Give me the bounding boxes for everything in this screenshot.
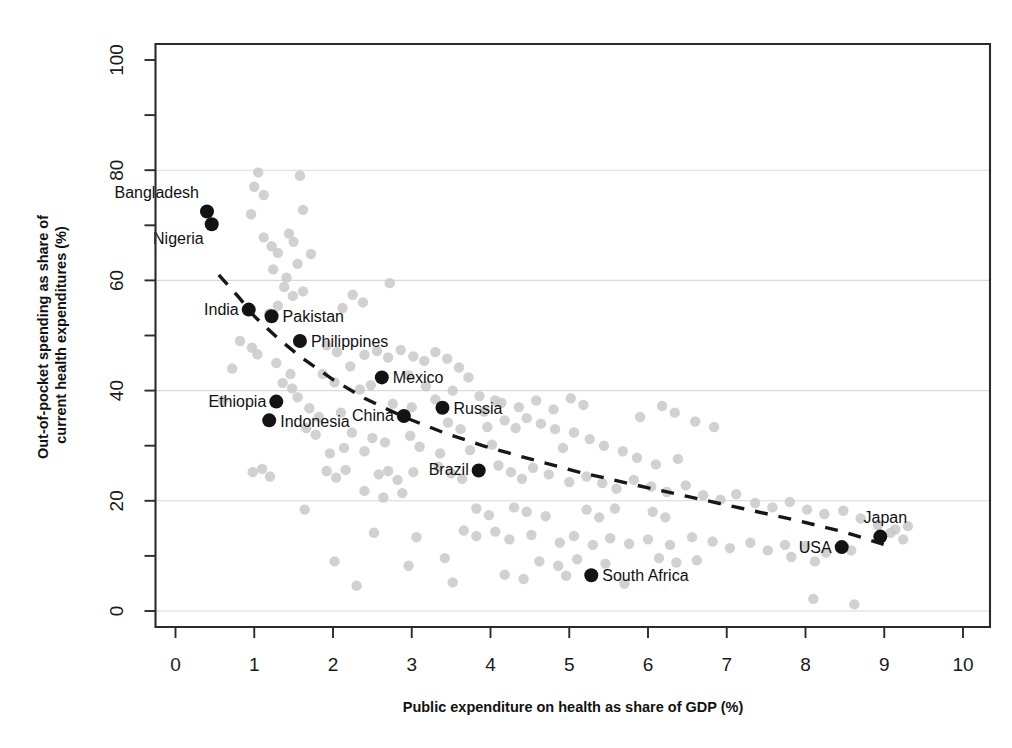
data-point <box>767 502 777 512</box>
data-point <box>285 369 295 379</box>
data-point <box>522 413 532 423</box>
data-point <box>555 537 565 547</box>
point-label-usa: USA <box>799 539 832 556</box>
highlight-point-bangladesh <box>200 205 214 219</box>
data-point <box>528 463 538 473</box>
data-point <box>355 384 365 394</box>
data-point <box>304 403 314 413</box>
highlight-point-nigeria <box>205 217 219 231</box>
data-point <box>499 569 509 579</box>
data-point <box>665 540 675 550</box>
highlight-point-india <box>242 303 256 317</box>
data-point <box>325 448 335 458</box>
data-point <box>295 171 305 181</box>
data-point <box>359 486 369 496</box>
data-point <box>531 395 541 405</box>
data-point <box>629 475 639 485</box>
data-point <box>359 350 369 360</box>
data-point <box>493 460 503 470</box>
x-tick-label-7: 7 <box>721 654 732 675</box>
data-point <box>347 290 357 300</box>
data-point <box>569 427 579 437</box>
data-point <box>499 415 509 425</box>
data-point <box>643 534 653 544</box>
data-point <box>558 443 568 453</box>
data-point <box>257 464 267 474</box>
point-label-japan: Japan <box>864 509 908 526</box>
data-point <box>624 539 634 549</box>
data-point <box>597 478 607 488</box>
data-point <box>657 401 667 411</box>
data-point <box>253 167 263 177</box>
data-point <box>277 378 287 388</box>
data-point <box>288 237 298 247</box>
data-point <box>750 498 760 508</box>
data-point <box>310 429 320 439</box>
data-point <box>383 466 393 476</box>
data-point <box>504 534 514 544</box>
data-point <box>273 248 283 258</box>
data-point <box>367 433 377 443</box>
data-point <box>351 580 361 590</box>
data-point <box>819 509 829 519</box>
point-label-china: China <box>352 407 394 424</box>
data-point <box>780 540 790 550</box>
data-point <box>550 424 560 434</box>
data-point <box>484 510 494 520</box>
data-point <box>279 282 289 292</box>
data-point <box>654 553 664 563</box>
data-point <box>610 503 620 513</box>
data-point <box>408 351 418 361</box>
x-tick-label-10: 10 <box>952 654 973 675</box>
y-tick-label-60: 60 <box>106 270 127 291</box>
data-point <box>440 553 450 563</box>
data-point <box>490 526 500 536</box>
data-point <box>698 490 708 500</box>
data-point <box>465 445 475 455</box>
data-point <box>518 574 528 584</box>
data-point <box>536 418 546 428</box>
data-point <box>681 480 691 490</box>
data-point <box>566 393 576 403</box>
data-point <box>581 471 591 481</box>
data-point <box>548 404 558 414</box>
data-point <box>455 424 465 434</box>
data-point <box>687 532 697 542</box>
chart-container: BangladeshNigeriaIndiaPakistanPhilippine… <box>0 0 1012 748</box>
data-point <box>358 297 368 307</box>
highlight-point-indonesia <box>262 413 276 427</box>
data-point <box>564 477 574 487</box>
data-point <box>511 423 521 433</box>
data-point <box>454 362 464 372</box>
x-tick-label-6: 6 <box>643 654 654 675</box>
data-point <box>259 232 269 242</box>
data-point <box>411 532 421 542</box>
data-point <box>534 556 544 566</box>
x-tick-label-4: 4 <box>485 654 496 675</box>
y-tick-label-40: 40 <box>106 380 127 401</box>
data-point <box>430 347 440 357</box>
data-point <box>288 291 298 301</box>
highlight-point-usa <box>835 540 849 554</box>
data-point <box>692 555 702 565</box>
highlight-point-ethiopia <box>269 395 283 409</box>
data-point <box>786 552 796 562</box>
point-label-south-africa: South Africa <box>602 567 688 584</box>
data-point <box>810 556 820 566</box>
data-point <box>632 453 642 463</box>
data-point <box>618 446 628 456</box>
data-point <box>673 454 683 464</box>
data-point <box>414 442 424 452</box>
data-point <box>544 469 554 479</box>
data-point <box>509 502 519 512</box>
data-point <box>273 301 283 311</box>
data-point <box>408 467 418 477</box>
data-point <box>671 557 681 567</box>
data-point <box>707 536 717 546</box>
data-point <box>359 446 369 456</box>
data-point <box>247 467 257 477</box>
data-point <box>259 190 269 200</box>
data-point <box>235 336 245 346</box>
data-point <box>725 543 735 553</box>
data-point <box>459 525 469 535</box>
